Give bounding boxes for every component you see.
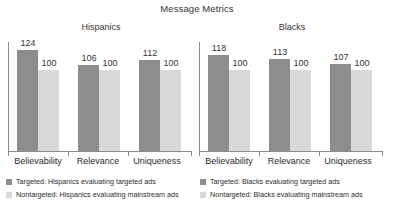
chart-title: Message Metrics bbox=[0, 3, 394, 14]
bar-value-label: 100 bbox=[93, 58, 127, 69]
bar-value-label: 118 bbox=[202, 43, 236, 54]
bar-value-label: 100 bbox=[154, 58, 188, 69]
bar-value-label: 113 bbox=[263, 47, 297, 58]
x-tick-label: Relevance bbox=[70, 156, 126, 166]
x-axis-line bbox=[8, 151, 192, 152]
panel-title-blacks: Blacks bbox=[196, 22, 386, 32]
legend-item: Nontargeted: Blacks evaluating mainstrea… bbox=[200, 189, 390, 200]
legend-label: Targeted: Blacks evaluating targeted ads bbox=[210, 177, 340, 186]
bar-nontargeted[interactable] bbox=[351, 70, 372, 151]
bar-value-label: 124 bbox=[11, 38, 45, 49]
bar-targeted[interactable] bbox=[330, 64, 351, 151]
bar-targeted[interactable] bbox=[208, 55, 229, 151]
y-axis-line bbox=[199, 42, 200, 152]
legend-item: Targeted: Hispanics evaluating targeted … bbox=[6, 176, 196, 187]
legend-blacks: Targeted: Blacks evaluating targeted ads… bbox=[200, 176, 390, 202]
chart-panel-hispanics: Hispanics 124 100 106 100 bbox=[2, 22, 192, 222]
message-metrics-chart: Message Metrics Hispanics 124 100 106 10… bbox=[0, 0, 394, 222]
bar-targeted[interactable] bbox=[78, 65, 99, 151]
bar-value-label: 100 bbox=[345, 58, 379, 69]
x-tick-label: Uniqueness bbox=[124, 156, 190, 166]
x-tick-label: Believability bbox=[195, 156, 263, 166]
legend-swatch-nontargeted-icon bbox=[200, 192, 206, 198]
bar-nontargeted[interactable] bbox=[99, 70, 120, 151]
legend-label: Nontargeted: Blacks evaluating mainstrea… bbox=[210, 190, 363, 199]
legend-swatch-nontargeted-icon bbox=[6, 192, 12, 198]
y-axis-line bbox=[8, 42, 9, 152]
legend-item: Nontargeted: Hispanics evaluating mainst… bbox=[6, 189, 196, 200]
bar-value-label: 100 bbox=[284, 58, 318, 69]
legend-label: Targeted: Hispanics evaluating targeted … bbox=[16, 177, 156, 186]
chart-panel-blacks: Blacks 118 100 113 100 bbox=[196, 22, 386, 222]
bar-nontargeted[interactable] bbox=[160, 70, 181, 151]
bar-nontargeted[interactable] bbox=[290, 70, 311, 151]
legend-swatch-targeted-icon bbox=[200, 179, 206, 185]
bar-targeted[interactable] bbox=[139, 60, 160, 151]
bar-value-label: 100 bbox=[223, 58, 257, 69]
bar-targeted[interactable] bbox=[269, 59, 290, 151]
x-tick-label: Believability bbox=[4, 156, 72, 166]
x-tick-label: Uniqueness bbox=[315, 156, 381, 166]
legend-hispanics: Targeted: Hispanics evaluating targeted … bbox=[6, 176, 196, 202]
panel-title-hispanics: Hispanics bbox=[2, 22, 192, 32]
x-axis-labels: Believability Relevance Uniqueness bbox=[8, 156, 192, 170]
legend-item: Targeted: Blacks evaluating targeted ads bbox=[200, 176, 390, 187]
legend-label: Nontargeted: Hispanics evaluating mainst… bbox=[16, 190, 179, 199]
x-axis-line bbox=[199, 151, 383, 152]
plot-area-hispanics: 124 100 106 100 112 100 bbox=[8, 42, 192, 152]
legend-swatch-targeted-icon bbox=[6, 179, 12, 185]
bar-value-label: 100 bbox=[32, 58, 66, 69]
bar-nontargeted[interactable] bbox=[229, 70, 250, 151]
plot-area-blacks: 118 100 113 100 107 100 bbox=[199, 42, 383, 152]
x-tick-label: Relevance bbox=[261, 156, 317, 166]
bar-nontargeted[interactable] bbox=[38, 70, 59, 151]
x-axis-labels: Believability Relevance Uniqueness bbox=[199, 156, 383, 170]
